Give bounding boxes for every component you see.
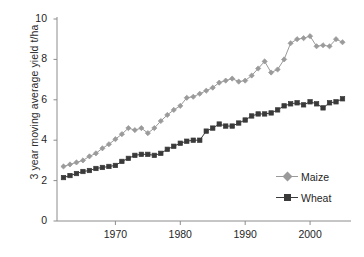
data-point: [275, 108, 279, 112]
diamond-icon: [276, 171, 298, 183]
data-point: [113, 163, 117, 167]
data-point: [191, 94, 196, 99]
data-point: [217, 122, 221, 126]
data-point: [159, 151, 163, 155]
data-point: [320, 43, 325, 48]
data-point: [100, 165, 104, 169]
data-point: [133, 153, 137, 157]
data-point: [68, 173, 72, 177]
data-point: [288, 102, 292, 106]
legend-item-maize[interactable]: Maize: [276, 166, 331, 187]
data-point: [165, 147, 169, 151]
data-point: [282, 104, 286, 108]
data-point: [262, 112, 266, 116]
data-point: [243, 118, 247, 122]
data-point: [204, 129, 208, 133]
data-point: [67, 162, 72, 167]
data-point: [80, 158, 85, 163]
data-point: [340, 97, 344, 101]
data-point: [334, 100, 338, 104]
data-point: [211, 126, 215, 130]
series-maize: [61, 34, 345, 169]
data-point: [327, 101, 331, 105]
x-tick-label: 1970: [95, 228, 135, 240]
legend-marker: [283, 172, 293, 182]
data-point: [191, 138, 195, 142]
data-point: [223, 78, 228, 83]
data-point: [126, 156, 130, 160]
x-tick-label: 1990: [225, 228, 265, 240]
data-point: [146, 152, 150, 156]
data-point: [340, 40, 345, 45]
data-point: [172, 144, 176, 148]
data-point: [197, 91, 202, 96]
data-point: [120, 159, 124, 163]
data-point: [314, 44, 319, 49]
data-point: [301, 36, 306, 41]
data-point: [269, 111, 273, 115]
square-icon: [276, 192, 298, 204]
data-point: [269, 70, 274, 75]
legend-item-wheat[interactable]: Wheat: [276, 187, 331, 208]
data-point: [294, 37, 299, 42]
data-point: [81, 169, 85, 173]
data-point: [282, 57, 287, 62]
y-tick-label: 0: [25, 214, 47, 226]
data-point: [301, 103, 305, 107]
data-point: [94, 166, 98, 170]
data-point: [321, 106, 325, 110]
x-tick-label: 2000: [290, 228, 330, 240]
legend-label: Wheat: [301, 192, 331, 204]
data-point: [61, 164, 66, 169]
series-layer: [61, 34, 345, 180]
data-point: [288, 41, 293, 46]
data-point: [139, 152, 143, 156]
y-tick-label: 10: [25, 12, 47, 24]
y-tick-label: 2: [25, 174, 47, 186]
data-point: [107, 164, 111, 168]
data-point: [132, 128, 137, 133]
chart-canvas: [0, 0, 364, 257]
data-point: [307, 34, 312, 39]
data-point: [87, 154, 92, 159]
data-point: [230, 76, 235, 81]
data-point: [249, 114, 253, 118]
data-point: [308, 100, 312, 104]
data-point: [61, 175, 65, 179]
data-point: [74, 160, 79, 165]
data-point: [178, 141, 182, 145]
legend-label: Maize: [301, 171, 329, 183]
x-tick-label: 1980: [160, 228, 200, 240]
y-tick-label: 8: [25, 52, 47, 64]
data-point: [152, 153, 156, 157]
data-point: [236, 79, 241, 84]
data-point: [198, 138, 202, 142]
y-tick-label: 6: [25, 93, 47, 105]
y-tick-label: 4: [25, 133, 47, 145]
data-point: [87, 168, 91, 172]
chart-figure: 3 year moving average yield t/ha 0246810…: [0, 0, 364, 257]
data-point: [295, 101, 299, 105]
data-point: [204, 88, 209, 93]
data-point: [314, 102, 318, 106]
data-point: [236, 121, 240, 125]
data-point: [74, 171, 78, 175]
data-point: [275, 67, 280, 72]
legend-marker: [284, 194, 291, 201]
data-point: [185, 139, 189, 143]
data-point: [256, 112, 260, 116]
data-point: [224, 124, 228, 128]
chart-legend: MaizeWheat: [276, 166, 331, 208]
data-point: [230, 124, 234, 128]
